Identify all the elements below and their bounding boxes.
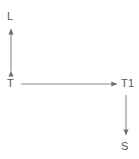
node-label-s: S: [121, 141, 129, 152]
diagram-edges-layer: [0, 0, 139, 159]
node-label-t: T: [7, 78, 14, 89]
node-label-l: L: [7, 11, 13, 22]
node-label-t1: T1: [121, 78, 134, 89]
diagram-canvas: L T T1 S: [0, 0, 139, 159]
